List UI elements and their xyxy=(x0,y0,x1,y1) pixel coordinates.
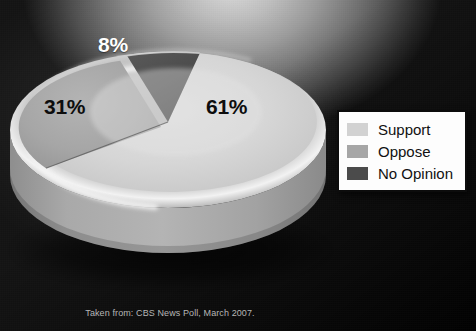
slice-label-no-opinion: 8% xyxy=(98,33,128,57)
legend-item-no-opinion[interactable]: No Opinion xyxy=(347,162,459,184)
legend-swatch-oppose xyxy=(347,145,368,158)
slice-label-support: 61% xyxy=(206,95,247,119)
legend-swatch-support xyxy=(347,123,368,136)
slice-label-oppose: 31% xyxy=(44,95,85,119)
legend-label-no-opinion: No Opinion xyxy=(378,166,453,181)
source-caption: Taken from: CBS News Poll, March 2007. xyxy=(0,308,340,318)
pie-chart-slide: 61% 31% 8% Support Oppose No Opinion Tak… xyxy=(0,0,476,331)
legend-swatch-no-opinion xyxy=(347,167,368,180)
legend-label-support: Support xyxy=(378,122,431,137)
chart-legend: Support Oppose No Opinion xyxy=(337,110,467,192)
legend-item-support[interactable]: Support xyxy=(347,118,459,140)
legend-item-oppose[interactable]: Oppose xyxy=(347,140,459,162)
legend-label-oppose: Oppose xyxy=(378,144,431,159)
